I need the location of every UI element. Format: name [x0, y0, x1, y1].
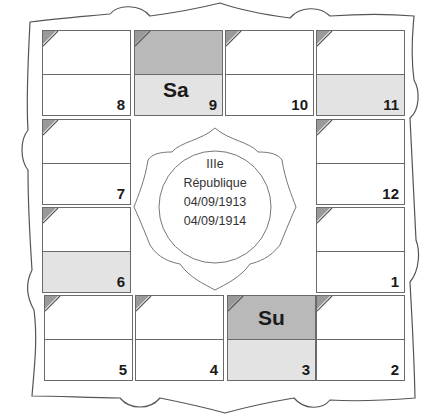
- corner-triangle-icon: [226, 31, 244, 49]
- corner-triangle-icon: [228, 296, 246, 314]
- house-number: 10: [291, 96, 308, 113]
- corner-triangle-icon: [43, 120, 61, 138]
- title-line-2: République: [150, 174, 280, 193]
- house-number: 6: [117, 273, 125, 290]
- corner-triangle-icon: [135, 31, 153, 49]
- house-4: 4: [135, 295, 224, 381]
- start-date: 04/09/1913: [150, 193, 280, 212]
- house-8: 8: [42, 30, 131, 116]
- house-number: 8: [117, 96, 125, 113]
- house-number: 3: [302, 361, 310, 378]
- planet-label: Su: [258, 306, 285, 330]
- corner-triangle-icon: [45, 296, 63, 314]
- house-number: 7: [117, 185, 125, 202]
- house-11: 11: [316, 30, 405, 116]
- house-number: 1: [391, 273, 399, 290]
- corner-triangle-icon: [136, 296, 154, 314]
- house-number: 4: [210, 361, 218, 378]
- house-12: 12: [316, 119, 405, 205]
- corner-triangle-icon: [43, 31, 61, 49]
- house-number: 11: [383, 96, 399, 113]
- house-5: 5: [44, 295, 133, 381]
- house-9: 9Sa: [134, 30, 223, 116]
- house-number: 9: [209, 96, 217, 113]
- house-7: 7: [42, 119, 131, 205]
- corner-triangle-icon: [43, 208, 61, 226]
- corner-triangle-icon: [317, 120, 335, 138]
- planet-label: Sa: [163, 78, 189, 102]
- house-2: 2: [316, 295, 405, 381]
- house-10: 10: [225, 30, 314, 116]
- corner-triangle-icon: [317, 296, 335, 314]
- house-number: 12: [382, 185, 399, 202]
- title-line-1: IIIe: [150, 155, 280, 174]
- corner-triangle-icon: [317, 208, 335, 226]
- chart-title: IIIe République 04/09/1913 04/09/1914: [150, 155, 280, 231]
- house-3: 3Su: [227, 295, 316, 381]
- corner-triangle-icon: [317, 31, 335, 49]
- house-1: 1: [316, 207, 405, 293]
- house-number: 5: [119, 361, 127, 378]
- house-6: 6: [42, 207, 131, 293]
- house-number: 2: [391, 361, 399, 378]
- end-date: 04/09/1914: [150, 212, 280, 231]
